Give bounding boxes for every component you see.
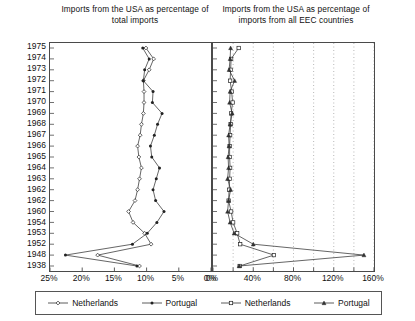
year-label: 1960 xyxy=(6,207,46,216)
data-point-marker xyxy=(140,166,144,170)
legend-item: Portugal xyxy=(141,298,198,308)
x-axis-tick-label: 5% xyxy=(172,272,184,284)
x-axis-tick-label: 80% xyxy=(284,272,301,284)
data-point-marker xyxy=(140,122,144,126)
data-point-marker xyxy=(136,188,140,192)
year-axis-labels: 1975197419731972197119701969196819671966… xyxy=(6,42,46,270)
data-point-marker xyxy=(153,134,156,137)
data-point-marker xyxy=(143,68,146,71)
legend-marker-square-icon xyxy=(220,298,242,308)
year-label: 1974 xyxy=(6,53,46,62)
data-point-marker xyxy=(135,265,138,268)
year-label: 1954 xyxy=(6,218,46,227)
data-point-marker xyxy=(142,101,146,105)
data-point-marker xyxy=(155,221,158,224)
data-point-marker xyxy=(149,145,152,148)
x-axis-tick-label: 15% xyxy=(105,272,122,284)
data-point-marker xyxy=(152,188,155,191)
year-label: 1953 xyxy=(6,228,46,237)
year-label: 1966 xyxy=(6,141,46,150)
data-point-marker xyxy=(162,210,165,213)
x-axis-tick-label: 160% xyxy=(362,272,384,284)
right-panel-title: Imports from the USA as percentage of im… xyxy=(212,4,380,25)
x-axis-tick-label: 20% xyxy=(73,272,90,284)
data-point-marker xyxy=(155,177,158,180)
data-point-marker xyxy=(272,253,275,256)
left-x-axis-labels: 25%20%15%10%5%0% xyxy=(49,272,210,284)
data-point-marker xyxy=(131,243,134,246)
legend-marker-triangle-icon xyxy=(313,298,335,308)
data-point-marker xyxy=(226,210,230,214)
right-x-axis-labels: 0%40%80%120%160% xyxy=(212,272,373,284)
data-point-marker xyxy=(151,101,154,104)
data-point-marker xyxy=(138,177,142,181)
chart-figure: Imports from the USA as percentage of to… xyxy=(0,0,415,321)
left-chart-plot xyxy=(50,43,211,271)
chart-legend: NetherlandsPortugalNetherlandsPortugal xyxy=(35,291,382,315)
data-point-marker xyxy=(229,301,232,304)
x-axis-tick-label: 10% xyxy=(137,272,154,284)
legend-item: Netherlands xyxy=(220,298,291,308)
data-point-marker xyxy=(152,90,155,93)
legend-label: Portugal xyxy=(166,298,198,308)
legend-marker-diamond-icon xyxy=(47,298,69,308)
data-point-marker xyxy=(133,199,137,203)
data-point-marker xyxy=(237,46,240,49)
data-point-marker xyxy=(146,232,149,235)
year-label: 1973 xyxy=(6,64,46,73)
legend-label: Netherlands xyxy=(72,298,118,308)
data-point-marker xyxy=(142,79,145,82)
legend-label: Portugal xyxy=(338,298,370,308)
data-point-marker xyxy=(150,302,153,305)
data-point-marker xyxy=(56,301,60,305)
legend-item: Portugal xyxy=(313,298,370,308)
x-axis-tick-label: 40% xyxy=(244,272,261,284)
year-label: 1972 xyxy=(6,75,46,84)
year-label: 1962 xyxy=(6,196,46,205)
data-point-marker xyxy=(161,112,164,115)
year-label: 1952 xyxy=(6,239,46,248)
data-point-marker xyxy=(142,90,146,94)
data-point-marker xyxy=(147,68,151,72)
data-point-marker xyxy=(228,79,231,82)
data-point-marker xyxy=(158,166,161,169)
year-label: 1967 xyxy=(6,130,46,139)
data-point-marker xyxy=(127,210,131,214)
year-label: 1964 xyxy=(6,163,46,172)
x-axis-tick-label: 120% xyxy=(322,272,344,284)
year-label: 1971 xyxy=(6,86,46,95)
year-label: 1969 xyxy=(6,108,46,117)
year-label: 1938 xyxy=(6,261,46,270)
data-point-marker xyxy=(141,112,145,116)
data-point-marker xyxy=(96,253,100,257)
data-point-marker xyxy=(149,242,153,246)
data-point-marker xyxy=(238,243,241,246)
data-point-marker xyxy=(141,47,144,50)
data-point-marker xyxy=(138,133,142,137)
series-line xyxy=(65,48,164,266)
data-point-marker xyxy=(229,210,232,213)
data-point-marker xyxy=(233,79,237,83)
legend-item: Netherlands xyxy=(47,298,118,308)
legend-label: Netherlands xyxy=(245,298,291,308)
year-label: 1970 xyxy=(6,97,46,106)
data-point-marker xyxy=(148,57,151,60)
left-panel-title: Imports from the USA as percentage of to… xyxy=(55,4,215,25)
right-chart-panel xyxy=(212,42,375,272)
data-point-marker xyxy=(229,46,233,50)
left-chart-panel xyxy=(49,42,212,272)
data-point-marker xyxy=(136,144,140,148)
data-point-marker xyxy=(137,155,141,159)
series-line xyxy=(228,48,364,266)
data-point-marker xyxy=(64,254,67,257)
x-axis-tick-label: 0% xyxy=(206,272,218,284)
legend-marker-dot-icon xyxy=(141,298,163,308)
year-label: 1963 xyxy=(6,174,46,183)
data-point-marker xyxy=(150,156,153,159)
year-label: 1948 xyxy=(6,250,46,259)
year-label: 1975 xyxy=(6,42,46,51)
data-point-marker xyxy=(156,123,159,126)
x-axis-tick-label: 25% xyxy=(40,272,57,284)
year-label: 1962 xyxy=(6,185,46,194)
data-point-marker xyxy=(154,199,157,202)
